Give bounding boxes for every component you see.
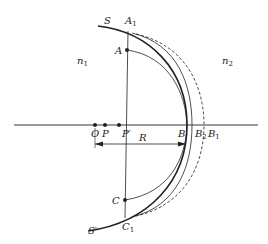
label-n2: n2 [222,55,233,68]
label-o: O [91,128,99,139]
diagram-svg: S A1 A n1 n2 O P P′ R B B2 B1 C S′ C1 [0,0,268,244]
label-p-prime: P′ [121,128,132,139]
label-r: R [138,132,147,143]
label-s-prime: S′ [88,225,98,236]
label-c: C [112,195,120,206]
label-n1: n1 [77,55,88,68]
point-c [123,198,127,202]
chord-line [125,31,128,218]
point-o [93,123,97,127]
label-p: P [101,128,109,139]
label-c1: C1 [122,221,134,234]
label-a: A [114,45,122,56]
label-a1: A1 [124,15,137,28]
point-a [125,48,129,52]
label-b1: B1 [207,128,220,141]
label-b2: B2 [194,128,207,141]
label-s: S [104,15,111,26]
optics-diagram: S A1 A n1 n2 O P P′ R B B2 B1 C S′ C1 [0,0,268,244]
point-p [103,123,107,127]
label-b: B [177,128,185,139]
radius-arrowhead-left [95,142,103,147]
point-p-prime [117,123,121,127]
